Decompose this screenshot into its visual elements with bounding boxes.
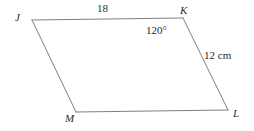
edge-KL xyxy=(183,18,228,110)
side-length-label-JK: 18 xyxy=(97,3,108,14)
side-length-label-KL: 12 cm xyxy=(204,50,231,61)
vertex-label-L: L xyxy=(233,108,239,119)
vertex-label-M: M xyxy=(65,113,74,124)
vertex-label-K: K xyxy=(180,5,187,16)
vertex-label-J: J xyxy=(15,12,20,23)
parallelogram-figure: J K L M 18 120° 12 cm xyxy=(0,0,254,131)
edge-MJ xyxy=(32,20,76,112)
edge-LM xyxy=(76,110,228,112)
angle-label-K: 120° xyxy=(146,25,167,36)
edge-JK xyxy=(32,18,183,20)
parallelogram-shape xyxy=(0,0,254,131)
